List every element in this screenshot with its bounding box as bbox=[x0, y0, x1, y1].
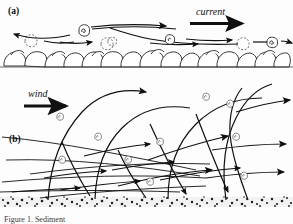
figure-caption: Figure 1. Sediment bbox=[4, 215, 290, 224]
panel-b: (b) wind bbox=[0, 84, 293, 207]
panel-b-label: (b) bbox=[9, 134, 21, 145]
wind-flow-label: wind bbox=[28, 88, 48, 99]
pebble-bed bbox=[0, 50, 293, 67]
panel-a-trajectories bbox=[14, 25, 292, 45]
panel-a: (a) current bbox=[0, 6, 293, 67]
impact-paths bbox=[62, 114, 228, 198]
wind-flight-paths bbox=[0, 137, 210, 198]
figure-svg: (a) current bbox=[0, 0, 293, 224]
panel-a-label: (a) bbox=[8, 6, 19, 17]
figure-container: (a) current bbox=[0, 0, 293, 224]
current-flow-label: current bbox=[196, 6, 225, 17]
